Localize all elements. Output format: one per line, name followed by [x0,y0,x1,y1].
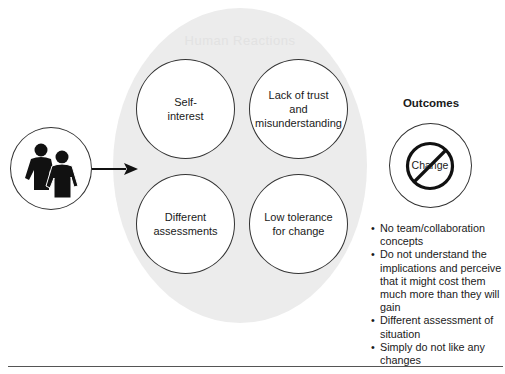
causes-ellipse [113,8,367,323]
arrow-icon [92,163,138,175]
outcome-item: Do not understand the implications and p… [370,248,505,314]
bottom-divider [8,366,503,367]
cause-low-tolerance: Low tolerance for change [249,174,348,274]
outcomes-title: Outcomes [390,97,472,109]
cause-self-interest: Self- interest [136,59,235,159]
cause-lack-of-trust: Lack of trust and misunderstanding [249,59,348,159]
people-circle [10,127,92,210]
cause-different-assessments: Different assessments [136,174,235,274]
outcome-item: Simply do not like any changes [370,341,505,367]
people-icon [11,128,91,208]
outcome-item: No team/collaboration concepts [370,222,505,248]
causes-faint-title: Human Reactions [150,33,330,48]
change-label: Change [405,159,455,171]
outcomes-list: No team/collaboration concepts Do not un… [370,222,505,367]
outcome-item: Different assessment of situation [370,314,505,340]
